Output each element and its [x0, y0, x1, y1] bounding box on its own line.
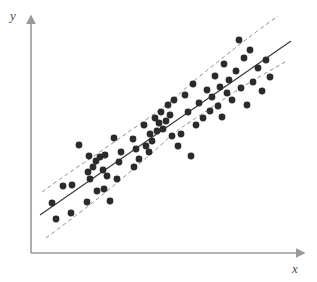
scatter-point — [53, 216, 60, 223]
scatter-point — [85, 169, 92, 176]
scatter-point — [247, 47, 254, 54]
scatter-point — [215, 103, 222, 110]
scatter-point — [209, 94, 216, 101]
scatter-point — [100, 167, 107, 174]
scatter-point — [188, 153, 195, 160]
upper-confidence-band — [42, 16, 278, 192]
scatter-point — [102, 152, 109, 159]
scatter-point — [160, 126, 167, 133]
scatter-point — [190, 81, 197, 88]
scatter-point — [104, 173, 111, 180]
scatter-point — [229, 97, 236, 104]
scatter-point — [136, 156, 143, 163]
scatter-point — [84, 199, 91, 206]
scatter-point — [217, 84, 224, 91]
scatter-point — [158, 109, 165, 116]
scatter-point — [212, 73, 219, 80]
scatter-point — [185, 109, 192, 116]
scatter-point — [101, 186, 108, 193]
scatter-point — [196, 100, 203, 107]
lower-confidence-band — [46, 62, 285, 238]
y-axis-label: y — [10, 9, 16, 22]
scatter-point — [226, 77, 233, 84]
scatter-point — [178, 131, 185, 138]
scatter-point — [114, 176, 121, 183]
scatter-point — [241, 55, 248, 62]
scatter-point — [167, 112, 174, 119]
scatter-point — [107, 198, 114, 205]
scatter-point — [219, 114, 226, 121]
scatter-point — [90, 164, 97, 171]
scatter-point — [68, 210, 75, 217]
scatter-point — [182, 92, 189, 99]
scatter-point — [116, 159, 123, 166]
scatter-point — [94, 188, 101, 195]
scatter-point — [60, 183, 67, 190]
scatter-point — [250, 79, 257, 86]
scatter-point — [143, 143, 150, 150]
scatter-point — [255, 65, 262, 72]
axes — [31, 16, 304, 253]
scatter-point — [49, 200, 56, 207]
data-points — [49, 37, 274, 223]
scatter-plot-figure: y x — [0, 0, 317, 282]
scatter-point — [171, 97, 178, 104]
scatter-point — [156, 120, 163, 127]
scatter-point — [224, 90, 231, 97]
scatter-point — [118, 149, 125, 156]
scatter-point — [111, 135, 118, 142]
scatter-point — [207, 108, 214, 115]
scatter-point — [141, 122, 148, 129]
scatter-point — [87, 176, 94, 183]
scatter-point — [233, 68, 240, 75]
scatter-point — [263, 57, 270, 64]
scatter-point — [200, 115, 207, 122]
scatter-point — [238, 85, 245, 92]
scatter-point — [163, 118, 170, 125]
scatter-point — [221, 61, 228, 68]
scatter-point — [149, 138, 156, 145]
scatter-point — [130, 136, 137, 143]
scatter-point — [204, 87, 211, 94]
scatter-point — [236, 37, 243, 44]
scatter-point — [131, 164, 138, 171]
scatter-point — [169, 133, 176, 140]
scatter-point — [193, 122, 200, 129]
scatter-point — [267, 74, 274, 81]
plot-canvas — [0, 0, 317, 282]
x-axis-label: x — [292, 262, 298, 275]
scatter-point — [154, 128, 161, 135]
scatter-point — [76, 142, 83, 149]
scatter-point — [175, 143, 182, 150]
scatter-point — [147, 131, 154, 138]
scatter-point — [69, 182, 76, 189]
scatter-point — [146, 149, 153, 156]
scatter-point — [259, 88, 266, 95]
scatter-point — [86, 153, 93, 160]
scatter-point — [244, 102, 251, 109]
scatter-point — [133, 146, 140, 153]
scatter-point — [165, 102, 172, 109]
